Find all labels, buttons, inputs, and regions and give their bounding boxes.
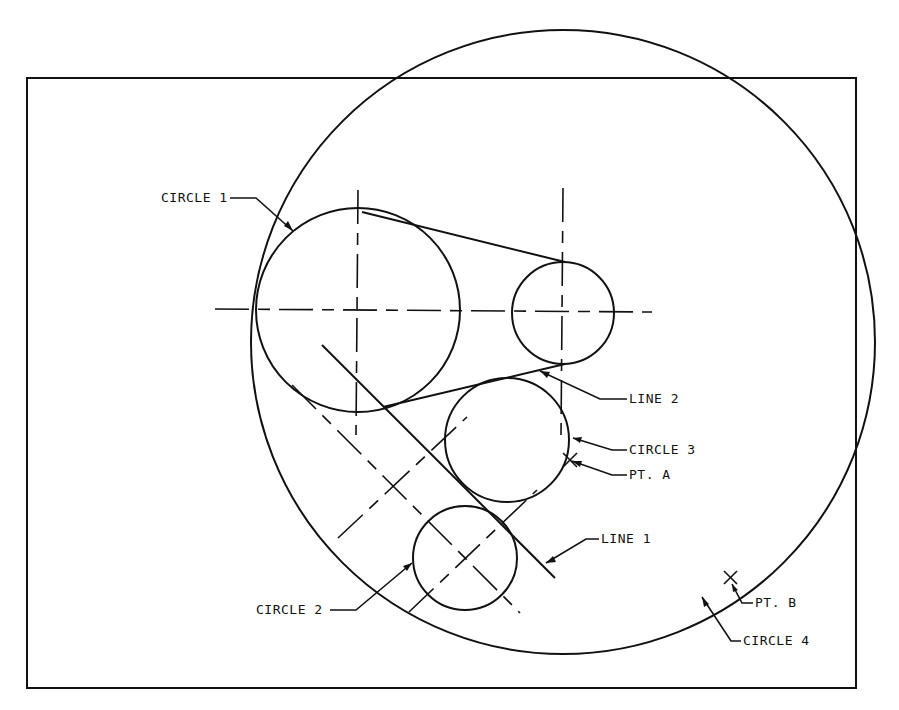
circle-2-label: CIRCLE 2: [256, 602, 323, 617]
drawing-frame: [27, 78, 856, 688]
circle-3-callout: CIRCLE 3: [573, 437, 696, 457]
circle-2-callout: CIRCLE 2: [256, 563, 412, 617]
upper-tangent-line: [362, 212, 565, 262]
pt-b-label: PT. B: [755, 595, 797, 610]
pt-a-callout: PT. A: [572, 461, 671, 482]
circle-4: [251, 30, 875, 654]
circle-3: [445, 378, 569, 502]
line-1-label: LINE 1: [601, 531, 651, 546]
line-2-label: LINE 2: [629, 391, 679, 406]
circle-3-label: CIRCLE 3: [629, 442, 696, 457]
line-1-callout: LINE 1: [546, 531, 651, 563]
geometry-drawing: CIRCLE 1 LINE 2 CIRCLE 3 PT. A LINE 1 CI…: [0, 0, 899, 710]
small-circle-vertical-centerline: [561, 188, 563, 437]
pt-b-marker: [724, 571, 737, 584]
circle-4-label: CIRCLE 4: [743, 633, 810, 648]
circle-1-vertical-centerline: [356, 190, 358, 435]
horizontal-centerline: [215, 309, 652, 312]
construction-line-b: [338, 417, 467, 538]
circle-1-label: CIRCLE 1: [161, 190, 228, 205]
construction-line-c: [409, 490, 537, 612]
pt-a-label: PT. A: [629, 467, 671, 482]
